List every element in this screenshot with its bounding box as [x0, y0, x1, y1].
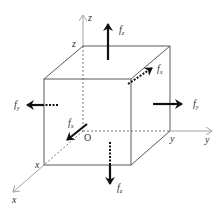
cube-force-diagram: z z y y x x O fz fz fy fy fx fx	[0, 0, 222, 208]
cube-bottom-right-edge	[131, 131, 170, 165]
z-axis-label: z	[87, 12, 92, 23]
x-axis-label: x	[11, 194, 17, 205]
force-fx-back	[128, 68, 152, 84]
diagram-canvas: z z y y x x O fz fz fy fy fx fx	[0, 0, 222, 208]
y-axis-label: y	[204, 134, 210, 145]
z-corner-label: z	[71, 38, 76, 49]
x-axis-hidden	[44, 131, 83, 165]
fy-right-label: fy	[193, 98, 199, 110]
x-corner-label: x	[34, 159, 40, 170]
origin-label: O	[84, 132, 91, 143]
cube-top-right-edge	[131, 46, 170, 79]
cube-top-left-edge	[44, 46, 83, 79]
y-corner-label: y	[169, 133, 175, 144]
forces	[27, 24, 182, 184]
cube-front-face	[44, 79, 131, 165]
fx-front-label: fx	[68, 117, 74, 129]
fy-left-label: fy	[14, 99, 20, 111]
fx-back-label: fx	[157, 63, 163, 75]
fz-bottom-label: fz	[117, 182, 123, 194]
cube	[44, 46, 170, 165]
fz-top-label: fz	[119, 24, 125, 36]
